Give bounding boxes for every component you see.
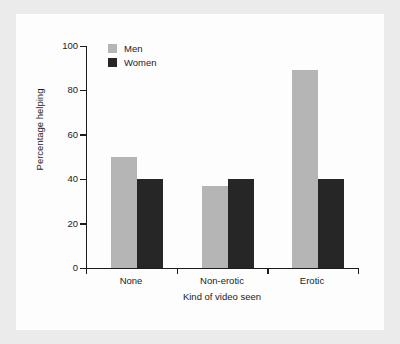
x-tick-boundary-3	[358, 268, 359, 274]
y-tick-100	[80, 46, 86, 47]
plot-area: 0 20 40 60 80 100 None Non-erotic Erotic…	[16, 14, 384, 330]
bar-men-non-erotic	[202, 186, 228, 268]
y-tick-80	[80, 90, 86, 91]
chart-legend: Men Women	[108, 44, 157, 71]
y-tick-label-100: 100	[38, 41, 78, 51]
chart-figure: 0 20 40 60 80 100 None Non-erotic Erotic…	[16, 14, 384, 330]
legend-item-women: Women	[108, 58, 157, 68]
bar-women-none	[137, 179, 163, 268]
x-tick-label-non-erotic: Non-erotic	[182, 276, 262, 286]
x-tick-boundary-0	[86, 268, 87, 274]
y-tick-60	[80, 134, 86, 135]
y-tick-label-0: 0	[38, 263, 78, 273]
y-tick-20	[80, 223, 86, 224]
y-tick-label-20: 20	[38, 219, 78, 229]
y-axis-line	[86, 46, 87, 268]
x-tick-boundary-1	[177, 268, 178, 274]
x-tick-label-none: None	[91, 276, 171, 286]
bar-women-erotic	[318, 179, 344, 268]
legend-label-men: Men	[124, 44, 142, 54]
x-tick-label-erotic: Erotic	[272, 276, 352, 286]
x-tick-boundary-2	[267, 268, 268, 274]
y-axis-title: Percentage helping	[34, 55, 45, 205]
legend-item-men: Men	[108, 44, 157, 54]
y-tick-40	[80, 179, 86, 180]
bar-men-erotic	[292, 70, 318, 268]
x-axis-title: Kind of video seen	[86, 291, 358, 302]
bar-women-non-erotic	[228, 179, 254, 268]
legend-swatch-men-icon	[108, 44, 117, 53]
bar-men-none	[111, 157, 137, 268]
legend-label-women: Women	[124, 58, 157, 68]
legend-swatch-women-icon	[108, 58, 117, 67]
x-axis-line	[86, 268, 358, 269]
